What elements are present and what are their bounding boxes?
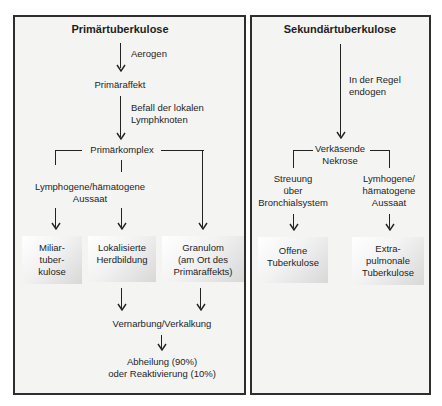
- final-outcome-line2: oder Reaktivierung (10%): [108, 368, 216, 380]
- node-primarkomplex: Primärkomplex: [90, 144, 153, 156]
- arrow-down-icon: [117, 222, 127, 230]
- arrow-down-icon: [116, 64, 126, 72]
- node-verkasende-line1: Verkäsende: [315, 143, 365, 155]
- outcome-offene-tuberkulose: Offene Tuberkulose: [258, 237, 328, 283]
- outcome-text: Herdbildung: [88, 254, 156, 266]
- outcome-text: kulose: [22, 266, 82, 278]
- arrow-down-icon: [198, 222, 208, 230]
- bracket-right-horizontal: [161, 150, 204, 151]
- edge-label-lymph-line1: Befall der lokalen: [131, 102, 204, 114]
- outcome-extrapulmonale-tuberkulose: Extra- pulmonale Tuberkulose: [352, 237, 424, 285]
- outcome-text: Granulom: [162, 242, 244, 254]
- bracket-center-vertical: [121, 160, 122, 172]
- bracket-left-horizontal: [55, 150, 82, 151]
- bracket-right-horizontal: [370, 150, 390, 151]
- outcome-granulom: Granulom (am Ort des Primäraffekts): [162, 236, 244, 282]
- outcome-text: Tuberkulose: [352, 267, 424, 279]
- arrow-endogen-shaft: [340, 44, 341, 136]
- left-branch-line3: Bronchialsystem: [258, 197, 328, 209]
- arrow-down-icon: [385, 223, 395, 231]
- outcome-lokalisierte-herdbildung: Lokalisierte Herdbildung: [88, 236, 156, 282]
- outcome-text: Primäraffekts): [162, 266, 244, 278]
- bracket-right-vertical: [389, 150, 390, 168]
- node-primaraffekt: Primäraffekt: [94, 79, 145, 91]
- bracket-left-vertical: [55, 150, 56, 165]
- outcome-text: Miliar-: [22, 242, 82, 254]
- edge-label-endogen-line1: In der Regel: [349, 74, 401, 86]
- left-branch-line2: über: [283, 185, 302, 197]
- branch-label-line1: Lymphogene/hämatogene: [35, 181, 145, 193]
- arrow-down-icon: [336, 131, 346, 139]
- arrow-down-icon: [196, 303, 206, 311]
- arrow-down-icon: [117, 303, 127, 311]
- right-branch-line1: Lymhogene/: [363, 173, 415, 185]
- outcome-text: Lokalisierte: [88, 242, 156, 254]
- secondary-title: Sekundärtuberkulose: [284, 23, 396, 35]
- edge-label-lymph-line2: Lymphknoten: [131, 114, 188, 126]
- edge-label-aerogen: Aerogen: [131, 48, 167, 60]
- right-branch-line2: hämatogene: [363, 185, 416, 197]
- node-verkasende-line2: Nekrose: [322, 155, 357, 167]
- outcome-text: tuber-: [22, 254, 82, 266]
- arrow-down-icon: [289, 223, 299, 231]
- branch-label-line2: Aussaat: [73, 193, 107, 205]
- final-outcome-line1: Abheilung (90%): [127, 356, 197, 368]
- outcome-text: Offene: [258, 245, 328, 257]
- arrow-down-icon: [116, 132, 126, 140]
- bracket-right-vertical: [202, 150, 203, 227]
- bracket-left-vertical: [293, 150, 294, 168]
- right-branch-line3: Aussaat: [372, 197, 406, 209]
- outcome-text: (am Ort des: [162, 254, 244, 266]
- primary-tb-panel: [13, 15, 246, 395]
- bracket-left-horizontal: [293, 150, 313, 151]
- outcome-text: pulmonale: [352, 255, 424, 267]
- arrow-down-icon: [51, 222, 61, 230]
- outcome-miliartuberkulose: Miliar- tuber- kulose: [22, 236, 82, 284]
- arrow-lymph-shaft: [120, 96, 121, 137]
- outcome-text: Extra-: [352, 243, 424, 255]
- primary-title: Primärtuberkulose: [71, 23, 168, 35]
- edge-label-endogen-line2: endogen: [349, 86, 386, 98]
- outcome-text: Tuberkulose: [258, 257, 328, 269]
- node-vernarbung: Vernarbung/Verkalkung: [113, 318, 212, 330]
- left-branch-line1: Streuung: [274, 173, 313, 185]
- arrow-down-icon: [157, 343, 167, 351]
